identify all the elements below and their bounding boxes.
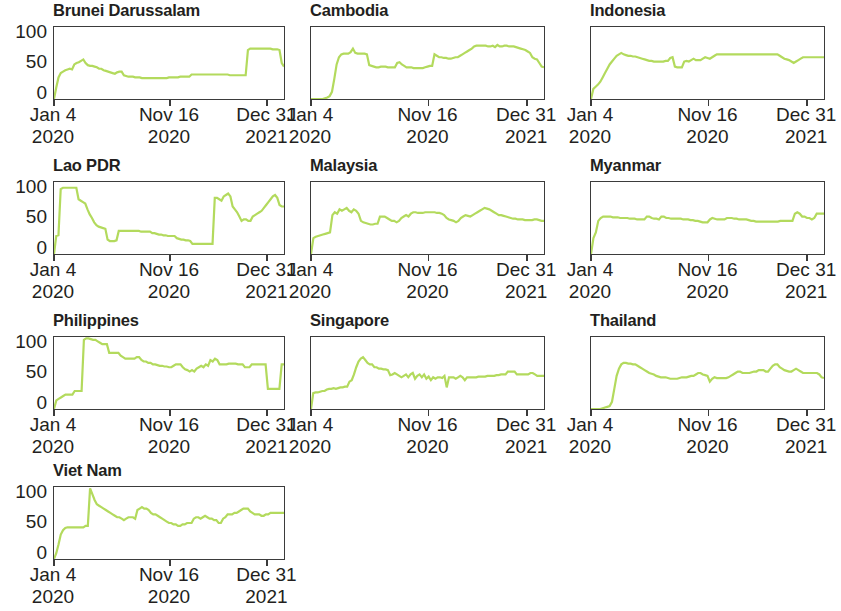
panel-title: Thailand xyxy=(590,310,656,330)
x-axis-labels: Jan 42020Nov 162020Dec 312021 xyxy=(20,104,292,152)
x-tick-label-year: 2021 xyxy=(751,126,841,148)
x-tick-label-date: Jan 4 xyxy=(0,259,108,281)
x-tick-label-date: Jan 4 xyxy=(255,104,365,126)
panel-malaysia: Malaysia Jan 42020Nov 162020Dec 312021 xyxy=(293,155,568,310)
series-line xyxy=(54,338,284,409)
series-line xyxy=(591,212,824,254)
plot-frame xyxy=(53,336,285,410)
x-tick-label-year: 2020 xyxy=(653,436,763,458)
plot-frame xyxy=(310,336,545,410)
x-tick-label-1: Nov 162020 xyxy=(114,259,224,303)
panel-myanmar: Myanmar Jan 42020Nov 162020Dec 312021 xyxy=(568,155,841,310)
panel-title: Malaysia xyxy=(310,155,377,175)
panel-title: Philippines xyxy=(53,310,139,330)
x-tick-label-0: Jan 42020 xyxy=(0,564,108,608)
x-tick-label-year: 2020 xyxy=(114,281,224,303)
x-tick-label-year: 2020 xyxy=(373,436,483,458)
plot-area xyxy=(590,26,825,100)
panel-philippines: Philippines 100 50 0 Jan 42020Nov 162020… xyxy=(0,310,293,460)
x-tick-label-1: Nov 162020 xyxy=(373,104,483,148)
y-tick-0: 0 xyxy=(36,393,47,412)
x-tick-label-year: 2020 xyxy=(0,126,108,148)
x-tick-label-year: 2021 xyxy=(751,281,841,303)
panel-viet-nam: Viet Nam 100 50 0 Jan 42020Nov 162020Dec… xyxy=(0,460,293,611)
plot-area xyxy=(310,336,545,410)
x-tick-label-year: 2020 xyxy=(0,586,108,608)
y-tick-0: 0 xyxy=(36,83,47,102)
x-tick-label-date: Jan 4 xyxy=(255,259,365,281)
y-tick-0: 0 xyxy=(36,543,47,562)
x-tick-label-date: Nov 16 xyxy=(373,259,483,281)
y-tick-0: 0 xyxy=(36,238,47,257)
x-tick-label-1: Nov 162020 xyxy=(373,414,483,458)
x-tick-label-0: Jan 42020 xyxy=(255,104,365,148)
series-svg xyxy=(311,337,544,409)
panel-empty-slot xyxy=(568,460,841,611)
x-tick-label-date: Jan 4 xyxy=(535,259,645,281)
x-tick-label-year: 2020 xyxy=(255,281,365,303)
x-axis-labels: Jan 42020Nov 162020Dec 312021 xyxy=(20,414,292,462)
y-tick-50: 50 xyxy=(26,207,47,226)
x-tick-label-date: Jan 4 xyxy=(255,414,365,436)
x-tick-label-date: Nov 16 xyxy=(114,564,224,586)
x-tick-label-0: Jan 42020 xyxy=(0,259,108,303)
x-tick-label-date: Jan 4 xyxy=(535,104,645,126)
panel-thailand: Thailand Jan 42020Nov 162020Dec 312021 xyxy=(568,310,841,460)
x-axis-labels: Jan 42020Nov 162020Dec 312021 xyxy=(557,104,832,152)
x-tick-label-year: 2020 xyxy=(373,126,483,148)
plot-frame xyxy=(590,26,825,100)
x-tick-label-2: Dec 312021 xyxy=(751,414,841,458)
x-tick-label-year: 2020 xyxy=(255,126,365,148)
x-axis-labels: Jan 42020Nov 162020Dec 312021 xyxy=(20,259,292,307)
small-multiples-grid: Brunei Darussalam 100 50 0 Jan 42020Nov … xyxy=(0,0,841,611)
series-line xyxy=(54,49,284,99)
plot-area xyxy=(53,181,285,255)
plot-frame xyxy=(310,26,545,100)
x-axis-labels: Jan 42020Nov 162020Dec 312021 xyxy=(277,414,552,462)
x-tick-label-date: Nov 16 xyxy=(373,414,483,436)
x-tick-label-date: Jan 4 xyxy=(0,104,108,126)
series-svg xyxy=(591,182,824,254)
series-svg xyxy=(591,27,824,99)
x-tick-label-year: 2020 xyxy=(0,281,108,303)
x-tick-label-date: Dec 31 xyxy=(751,104,841,126)
x-tick-label-year: 2020 xyxy=(535,281,645,303)
plot-area xyxy=(310,181,545,255)
x-tick-label-year: 2020 xyxy=(653,281,763,303)
x-axis-labels: Jan 42020Nov 162020Dec 312021 xyxy=(277,259,552,307)
y-tick-100: 100 xyxy=(15,332,47,351)
panel-title: Cambodia xyxy=(310,0,388,20)
y-axis-labels: 100 50 0 xyxy=(0,336,47,410)
plot-area xyxy=(310,26,545,100)
x-tick-label-0: Jan 42020 xyxy=(0,104,108,148)
x-tick-label-2: Dec 312021 xyxy=(751,104,841,148)
plot-area xyxy=(590,181,825,255)
x-tick-label-1: Nov 162020 xyxy=(114,104,224,148)
x-tick-label-year: 2020 xyxy=(0,436,108,458)
x-tick-label-0: Jan 42020 xyxy=(535,259,645,303)
series-line xyxy=(54,188,284,254)
panel-title: Lao PDR xyxy=(53,155,120,175)
x-axis-labels: Jan 42020Nov 162020Dec 312021 xyxy=(557,259,832,307)
panel-lao-pdr: Lao PDR 100 50 0 Jan 42020Nov 162020Dec … xyxy=(0,155,293,310)
x-tick-label-date: Nov 16 xyxy=(653,259,763,281)
series-svg xyxy=(311,27,544,99)
x-tick-label-0: Jan 42020 xyxy=(255,414,365,458)
y-axis-labels: 100 50 0 xyxy=(0,486,47,560)
x-tick-label-0: Jan 42020 xyxy=(255,259,365,303)
x-tick-label-year: 2020 xyxy=(114,586,224,608)
plot-area xyxy=(53,336,285,410)
plot-frame xyxy=(590,181,825,255)
x-tick-label-year: 2021 xyxy=(751,436,841,458)
x-tick-label-date: Jan 4 xyxy=(535,414,645,436)
series-svg xyxy=(54,487,284,559)
x-tick-label-date: Dec 31 xyxy=(751,414,841,436)
x-tick-label-date: Nov 16 xyxy=(653,104,763,126)
x-axis-labels: Jan 42020Nov 162020Dec 312021 xyxy=(557,414,832,462)
x-tick-label-1: Nov 162020 xyxy=(653,414,763,458)
panel-cambodia: Cambodia Jan 42020Nov 162020Dec 312021 xyxy=(293,0,568,155)
x-axis-labels: Jan 42020Nov 162020Dec 312021 xyxy=(20,564,292,611)
x-tick-label-1: Nov 162020 xyxy=(653,259,763,303)
y-axis-labels: 100 50 0 xyxy=(0,181,47,255)
panel-title: Brunei Darussalam xyxy=(53,0,200,20)
